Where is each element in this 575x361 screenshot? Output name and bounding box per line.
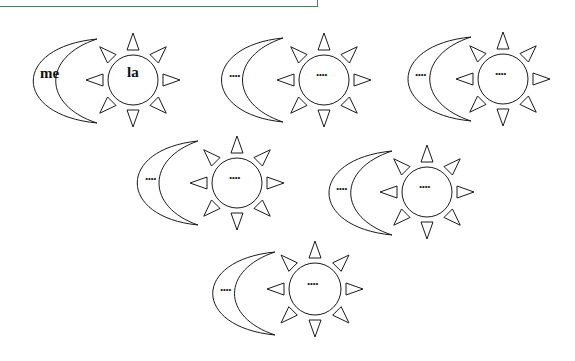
sun-label: .... <box>229 167 240 182</box>
sun-ray-icon <box>281 255 297 271</box>
sun-circle-icon <box>212 158 262 208</box>
sun-ray-icon <box>333 255 349 271</box>
sun-ray-icon <box>394 209 410 225</box>
sun-ray-icon <box>520 46 536 62</box>
sun-label: .... <box>419 176 430 191</box>
moon-sun-group-3: ........ <box>408 32 550 126</box>
sun-ray-icon <box>318 33 330 50</box>
sun-ray-icon <box>150 47 166 63</box>
sun-ray-icon <box>204 200 220 216</box>
sun-ray-icon <box>86 74 103 86</box>
sun-circle-icon <box>108 55 158 105</box>
sun-ray-icon <box>457 186 474 198</box>
sun-ray-icon <box>150 97 166 113</box>
moon-label: .... <box>220 279 231 294</box>
sun-ray-icon <box>318 110 330 127</box>
crescent-moon-icon <box>222 38 284 122</box>
sun-label: .... <box>495 63 506 78</box>
sun-ray-icon <box>421 222 433 239</box>
moon-label: .... <box>229 65 240 80</box>
sun-ray-icon <box>444 209 460 225</box>
moon-sun-group-2: ........ <box>222 33 372 127</box>
sun-ray-icon <box>520 96 536 112</box>
sun-ray-icon <box>346 283 363 295</box>
sun-ray-icon <box>190 177 207 189</box>
sun-ray-icon <box>333 307 349 323</box>
sun-label: la <box>127 64 139 80</box>
sun-ray-icon <box>497 32 509 49</box>
sun-circle-icon <box>402 167 452 217</box>
moon-label: .... <box>415 64 426 79</box>
moon-label: .... <box>336 178 347 193</box>
sun-ray-icon <box>309 241 321 258</box>
sun-ray-icon <box>231 136 243 153</box>
sun-ray-icon <box>267 177 284 189</box>
sun-ray-icon <box>231 213 243 230</box>
sun-circle-icon <box>478 54 528 104</box>
sun-ray-icon <box>291 47 307 63</box>
moon-label: me <box>40 65 59 81</box>
moon-sun-diagram: mela....................................… <box>0 0 575 361</box>
sun-ray-icon <box>533 73 550 85</box>
sun-ray-icon <box>470 46 486 62</box>
sun-ray-icon <box>204 150 220 166</box>
sun-ray-icon <box>354 74 371 86</box>
sun-ray-icon <box>163 74 180 86</box>
crescent-moon-icon <box>213 252 275 335</box>
sun-ray-icon <box>341 97 357 113</box>
sun-ray-icon <box>127 33 139 50</box>
sun-ray-icon <box>254 200 270 216</box>
sun-ray-icon <box>309 320 321 337</box>
sun-label: .... <box>316 64 327 79</box>
sun-label: .... <box>307 273 318 288</box>
sun-ray-icon <box>254 150 270 166</box>
moon-sun-group-4: ........ <box>137 136 284 230</box>
moon-sun-group-1: mela <box>33 33 180 127</box>
sun-ray-icon <box>100 47 116 63</box>
sun-ray-icon <box>497 109 509 126</box>
sun-ray-icon <box>277 74 294 86</box>
moon-sun-group-6: ........ <box>213 241 363 337</box>
moon-sun-group-5: ........ <box>329 145 474 239</box>
sun-ray-icon <box>444 159 460 175</box>
sun-ray-icon <box>470 96 486 112</box>
sun-ray-icon <box>267 283 284 295</box>
sun-circle-icon <box>289 263 341 315</box>
sun-ray-icon <box>291 97 307 113</box>
sun-ray-icon <box>127 110 139 127</box>
sun-ray-icon <box>100 97 116 113</box>
sun-ray-icon <box>456 73 473 85</box>
sun-ray-icon <box>281 307 297 323</box>
sun-ray-icon <box>380 186 397 198</box>
sun-ray-icon <box>394 159 410 175</box>
sun-ray-icon <box>341 47 357 63</box>
sun-ray-icon <box>421 145 433 162</box>
moon-label: .... <box>145 168 156 183</box>
sun-circle-icon <box>299 55 349 105</box>
